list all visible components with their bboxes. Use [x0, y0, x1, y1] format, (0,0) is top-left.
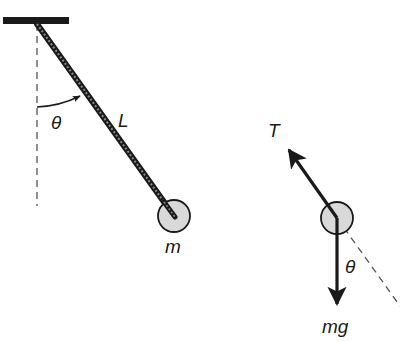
tension-arrow	[289, 150, 337, 218]
length-label: L	[118, 110, 129, 131]
diagram-svg: θ L m T θ mg	[0, 0, 402, 342]
angle-label: θ	[51, 112, 62, 133]
tension-label: T	[268, 120, 281, 141]
angle-arc-arrow	[37, 96, 80, 107]
free-body-angle-label: θ	[345, 256, 356, 277]
weight-label: mg	[322, 316, 349, 337]
mass-label: m	[165, 236, 181, 257]
free-body-diagram: T θ mg	[268, 120, 400, 337]
pendulum: θ L m	[3, 17, 190, 257]
pendulum-diagram: θ L m T θ mg	[0, 0, 402, 342]
